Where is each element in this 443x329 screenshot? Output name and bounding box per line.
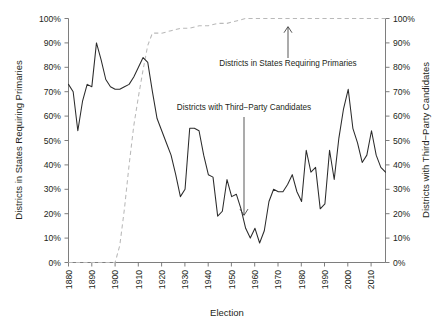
annotation-primaries: Districts in States Requiring Primaries bbox=[219, 27, 356, 68]
right-tick-label: 0% bbox=[393, 258, 406, 268]
left-tick-label: 10% bbox=[44, 233, 62, 243]
left-tick-label: 60% bbox=[44, 111, 62, 121]
right-tick-label: 70% bbox=[393, 87, 411, 97]
left-tick-label: 90% bbox=[44, 38, 62, 48]
left-axis-title: Districts in States Requiring Primaries bbox=[13, 60, 24, 220]
annotation-primaries-label: Districts in States Requiring Primaries bbox=[219, 59, 356, 68]
left-tick-label: 20% bbox=[44, 209, 62, 219]
x-tick-label: 1940 bbox=[203, 270, 213, 289]
chart-figure: 0% 10% 20% 30% 40% 50% 60% 70% 80% 90% 1… bbox=[0, 0, 443, 329]
right-tick-label: 40% bbox=[393, 160, 411, 170]
x-tick-label: 1930 bbox=[180, 270, 190, 289]
x-tick-label: 2000 bbox=[343, 270, 353, 289]
right-tick-label: 80% bbox=[393, 62, 411, 72]
x-tick-label: 1920 bbox=[157, 270, 167, 289]
left-tick-label: 70% bbox=[44, 87, 62, 97]
left-tick-label: 100% bbox=[39, 14, 61, 24]
annotation-third-party: Districts with Third−Party Candidates bbox=[177, 103, 311, 215]
right-tick-label: 10% bbox=[393, 233, 411, 243]
x-tick-label: 1950 bbox=[227, 270, 237, 289]
right-tick-label: 20% bbox=[393, 209, 411, 219]
x-tick-label: 2010 bbox=[366, 270, 376, 289]
chart-svg: 0% 10% 20% 30% 40% 50% 60% 70% 80% 90% 1… bbox=[0, 0, 443, 329]
right-axis-ticks bbox=[386, 19, 390, 263]
x-tick-label: 1970 bbox=[273, 270, 283, 289]
right-tick-label: 100% bbox=[393, 14, 415, 24]
x-axis-tick-labels: 1880 1890 1900 1910 1920 1930 1940 1950 … bbox=[64, 270, 377, 289]
x-axis-title: Election bbox=[210, 307, 244, 318]
right-axis-title: Districts with Third−Party Candidates bbox=[420, 62, 431, 218]
left-tick-label: 80% bbox=[44, 62, 62, 72]
x-tick-label: 1960 bbox=[250, 270, 260, 289]
x-tick-label: 1890 bbox=[87, 270, 97, 289]
series-third-party-line bbox=[69, 43, 386, 243]
left-tick-label: 0% bbox=[49, 258, 62, 268]
x-axis-ticks bbox=[69, 263, 372, 267]
x-tick-label: 1880 bbox=[64, 270, 74, 289]
right-axis-tick-labels: 0% 10% 20% 30% 40% 50% 60% 70% 80% 90% 1… bbox=[393, 14, 415, 268]
right-tick-label: 90% bbox=[393, 38, 411, 48]
right-tick-label: 60% bbox=[393, 111, 411, 121]
left-tick-label: 30% bbox=[44, 184, 62, 194]
plot-frame bbox=[69, 19, 386, 263]
series-primaries-line bbox=[69, 19, 386, 263]
left-axis-tick-labels: 0% 10% 20% 30% 40% 50% 60% 70% 80% 90% 1… bbox=[39, 14, 61, 268]
x-tick-label: 1990 bbox=[320, 270, 330, 289]
left-tick-label: 40% bbox=[44, 160, 62, 170]
left-tick-label: 50% bbox=[44, 136, 62, 146]
x-tick-label: 1910 bbox=[134, 270, 144, 289]
x-tick-label: 1900 bbox=[110, 270, 120, 289]
right-tick-label: 50% bbox=[393, 136, 411, 146]
left-axis-ticks bbox=[65, 19, 69, 263]
annotation-third-party-label: Districts with Third−Party Candidates bbox=[177, 103, 311, 112]
right-tick-label: 30% bbox=[393, 184, 411, 194]
x-tick-label: 1980 bbox=[297, 270, 307, 289]
